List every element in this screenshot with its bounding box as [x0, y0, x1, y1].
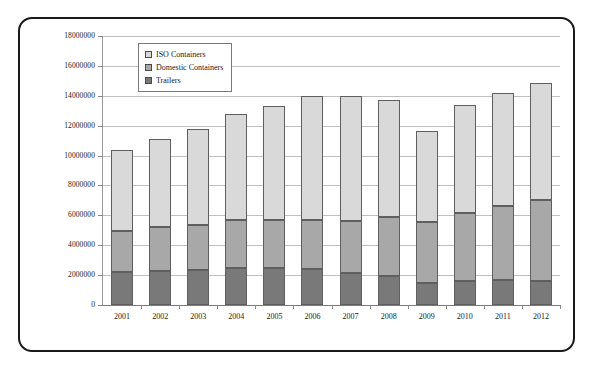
x-axis-tick-mark [255, 305, 256, 309]
x-axis-tick-mark [141, 305, 142, 309]
bar-column[interactable] [263, 36, 285, 305]
bar-segment[interactable] [378, 100, 400, 217]
legend-item-label: ISO Containers [156, 50, 206, 60]
y-axis-tick-mark [98, 156, 103, 157]
stacked-bar-chart: ISO ContainersDomestic ContainersTrailer… [0, 0, 595, 376]
x-axis-tick-label: 2004 [216, 312, 256, 322]
bar-column[interactable] [340, 36, 362, 305]
bar-segment[interactable] [263, 268, 285, 305]
y-axis-tick-label: 12000000 [0, 121, 95, 130]
x-axis-tick-label: 2003 [178, 312, 218, 322]
x-axis-tick-label: 2010 [445, 312, 485, 322]
bar-column[interactable] [111, 36, 133, 305]
x-axis-tick-mark [332, 305, 333, 309]
x-axis-tick-label: 2006 [292, 312, 332, 322]
x-axis-tick-mark [179, 305, 180, 309]
bar-segment[interactable] [111, 272, 133, 305]
x-axis-tick-label: 2012 [521, 312, 561, 322]
bar-segment[interactable] [530, 200, 552, 281]
bar-segment[interactable] [378, 276, 400, 305]
x-axis-tick-mark [293, 305, 294, 309]
bar-segment[interactable] [340, 96, 362, 221]
bar-column[interactable] [530, 36, 552, 305]
bar-segment[interactable] [416, 283, 438, 305]
x-axis-tick-mark [560, 305, 561, 309]
x-axis-tick-mark [522, 305, 523, 309]
bar-segment[interactable] [301, 220, 323, 269]
bar-segment[interactable] [149, 271, 171, 305]
bar-segment[interactable] [225, 268, 247, 305]
x-axis-tick-label: 2008 [369, 312, 409, 322]
bar-segment[interactable] [530, 281, 552, 305]
y-axis-tick-mark [98, 66, 103, 67]
bar-segment[interactable] [454, 105, 476, 213]
legend-swatch-icon [145, 77, 152, 84]
x-axis-tick-label: 2011 [483, 312, 523, 322]
x-axis-tick-label: 2007 [331, 312, 371, 322]
legend-item-label: Trailers [156, 76, 181, 86]
x-axis-tick-label: 2002 [140, 312, 180, 322]
x-axis-tick-label: 2005 [254, 312, 294, 322]
y-axis-tick-mark [98, 215, 103, 216]
bar-segment[interactable] [416, 222, 438, 283]
legend-item[interactable]: ISO Containers [145, 48, 223, 61]
bar-segment[interactable] [111, 150, 133, 231]
bar-segment[interactable] [492, 206, 514, 279]
legend-swatch-icon [145, 51, 152, 58]
bar-segment[interactable] [263, 106, 285, 220]
y-axis-tick-label: 16000000 [0, 61, 95, 70]
bar-segment[interactable] [187, 225, 209, 270]
legend-item-label: Domestic Containers [156, 63, 223, 73]
bar-column[interactable] [454, 36, 476, 305]
bar-segment[interactable] [530, 83, 552, 200]
legend-swatch-icon [145, 64, 152, 71]
x-axis-tick-mark [484, 305, 485, 309]
y-axis-tick-mark [98, 96, 103, 97]
y-axis-line [102, 36, 103, 306]
bar-column[interactable] [301, 36, 323, 305]
chart-legend: ISO ContainersDomestic ContainersTrailer… [138, 43, 232, 92]
bar-segment[interactable] [149, 139, 171, 227]
y-axis-tick-label: 2000000 [0, 270, 95, 279]
x-axis-tick-mark [446, 305, 447, 309]
x-axis-tick-mark [408, 305, 409, 309]
bar-segment[interactable] [301, 96, 323, 220]
bar-segment[interactable] [492, 280, 514, 305]
bar-segment[interactable] [340, 221, 362, 273]
bar-segment[interactable] [454, 213, 476, 281]
y-axis-tick-mark [98, 36, 103, 37]
bar-segment[interactable] [263, 220, 285, 268]
bar-segment[interactable] [225, 114, 247, 220]
bar-segment[interactable] [301, 269, 323, 305]
x-axis-tick-label: 2009 [407, 312, 447, 322]
bar-segment[interactable] [454, 281, 476, 305]
y-axis-tick-label: 8000000 [0, 180, 95, 189]
bar-column[interactable] [492, 36, 514, 305]
y-axis-tick-mark [98, 245, 103, 246]
y-axis-tick-label: 14000000 [0, 91, 95, 100]
bar-segment[interactable] [187, 270, 209, 305]
bar-column[interactable] [378, 36, 400, 305]
legend-item[interactable]: Domestic Containers [145, 61, 223, 74]
bar-segment[interactable] [492, 93, 514, 207]
x-axis-tick-mark [370, 305, 371, 309]
y-axis-tick-mark [98, 275, 103, 276]
bar-segment[interactable] [378, 217, 400, 276]
y-axis-tick-label: 4000000 [0, 240, 95, 249]
bar-segment[interactable] [340, 273, 362, 305]
bar-segment[interactable] [416, 131, 438, 222]
bar-segment[interactable] [187, 129, 209, 225]
y-axis-tick-label: 18000000 [0, 31, 95, 40]
y-axis-tick-mark [98, 126, 103, 127]
bar-segment[interactable] [149, 227, 171, 271]
bar-segment[interactable] [111, 231, 133, 272]
legend-item[interactable]: Trailers [145, 74, 223, 87]
bar-segment[interactable] [225, 220, 247, 268]
y-axis-tick-label: 0 [0, 300, 95, 309]
y-axis-tick-label: 10000000 [0, 151, 95, 160]
y-axis-tick-label: 6000000 [0, 210, 95, 219]
y-axis-tick-mark [98, 305, 103, 306]
y-axis-tick-mark [98, 185, 103, 186]
x-axis-tick-label: 2001 [102, 312, 142, 322]
bar-column[interactable] [416, 36, 438, 305]
